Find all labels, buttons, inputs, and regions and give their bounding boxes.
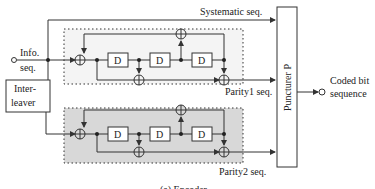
info-label: Info. — [20, 47, 39, 58]
parity2-label: Parity2 seq. — [219, 166, 266, 177]
delay-2c: D — [198, 129, 205, 140]
delay-1c: D — [198, 55, 205, 66]
interleaver-label-2: leaver — [11, 97, 35, 108]
delay-1a: D — [114, 55, 121, 66]
delay-1b: D — [156, 55, 163, 66]
coded-label-2: sequence — [330, 88, 367, 99]
systematic-label: Systematic seq. — [200, 6, 262, 17]
seq-label: seq. — [20, 62, 36, 73]
delay-2a: D — [114, 129, 121, 140]
coded-label-1: Coded bit — [330, 75, 369, 86]
interleaver-label-1: Inter- — [14, 83, 36, 94]
parity1-label: Parity1 seq. — [225, 86, 272, 97]
caption: (a) Encoder — [160, 184, 207, 189]
delay-2b: D — [156, 129, 163, 140]
puncturer-label: Puncturer P — [282, 42, 293, 134]
turbo-encoder-diagram — [0, 0, 375, 189]
